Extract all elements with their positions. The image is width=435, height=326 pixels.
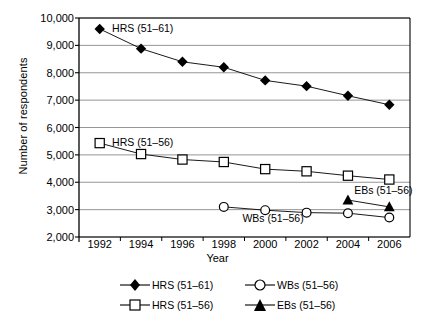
series-line xyxy=(348,200,389,207)
data-point-open-square xyxy=(343,171,352,180)
data-point-open-circle xyxy=(385,213,394,222)
legend-label: HRS (51–61) xyxy=(152,279,213,291)
data-point-open-circle xyxy=(261,206,270,215)
data-point-open-square xyxy=(385,175,394,184)
legend-label: HRS (51–56) xyxy=(152,299,213,311)
data-point-filled-triangle xyxy=(343,194,354,204)
chart-figure: Number of respondents Year 10,0009,0008,… xyxy=(0,0,435,326)
data-point-open-square xyxy=(95,139,104,148)
data-point-open-square xyxy=(261,165,270,174)
legend-item-hrs-51-56: HRS (51–56) xyxy=(118,296,243,314)
data-point-open-square xyxy=(178,155,187,164)
filled-triangle-icon xyxy=(243,296,277,314)
data-point-filled-diamond xyxy=(260,75,270,85)
legend-item-wbs-51-56: WBs (51–56) xyxy=(243,276,368,294)
legend-item-ebs-51-56: EBs (51–56) xyxy=(243,296,368,314)
data-point-filled-diamond xyxy=(177,57,187,67)
data-point-filled-diamond xyxy=(301,81,311,91)
legend-label: WBs (51–56) xyxy=(277,279,338,291)
data-point-open-square xyxy=(219,157,228,166)
chart-legend: HRS (51–61) WBs (51–56) HRS (51–56) xyxy=(118,275,368,315)
legend-row: HRS (51–56) EBs (51–56) xyxy=(118,295,368,315)
legend-item-hrs-51-61: HRS (51–61) xyxy=(118,276,243,294)
data-point-filled-diamond xyxy=(343,91,353,101)
open-square-icon xyxy=(118,296,152,314)
filled-diamond-icon xyxy=(118,276,152,294)
legend-label: EBs (51–56) xyxy=(277,299,335,311)
series-hrs-51-56- xyxy=(95,139,394,185)
data-point-open-square xyxy=(302,167,311,176)
legend-row: HRS (51–61) WBs (51–56) xyxy=(118,275,368,295)
data-point-open-circle xyxy=(219,202,228,211)
data-point-open-circle xyxy=(302,208,311,217)
series-ebs-51-56- xyxy=(343,194,395,211)
data-point-open-square xyxy=(136,149,145,158)
data-point-open-circle xyxy=(344,209,353,218)
open-circle-icon xyxy=(243,276,277,294)
data-point-filled-diamond xyxy=(94,24,104,34)
data-point-filled-diamond xyxy=(219,62,229,72)
data-point-filled-diamond xyxy=(384,100,394,110)
series-hrs-51-61- xyxy=(94,24,394,110)
series-wbs-51-56- xyxy=(219,202,393,221)
